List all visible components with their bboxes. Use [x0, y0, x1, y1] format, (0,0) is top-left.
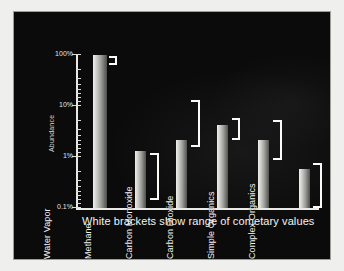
bracket-spine [320, 163, 322, 208]
y-minor-tick [76, 180, 81, 181]
bracket-bottom-arm [150, 198, 159, 200]
y-minor-tick [76, 89, 81, 90]
y-minor-tick [76, 78, 81, 79]
y-minor-tick [76, 84, 81, 85]
y-minor-tick [76, 199, 81, 200]
y-major-tick [72, 105, 81, 106]
bar-water-vapor[interactable] [93, 55, 107, 208]
bracket-bottom-arm [109, 63, 117, 65]
bracket-water-vapor [109, 56, 117, 65]
y-major-tick [72, 156, 81, 157]
y-minor-tick [76, 186, 81, 187]
bracket-bottom-arm [191, 145, 200, 147]
y-minor-tick [76, 129, 81, 130]
bar-complex-organics[interactable] [299, 169, 310, 208]
y-minor-tick [76, 97, 81, 98]
bracket-methane [150, 153, 159, 200]
bracket-spine [157, 153, 159, 200]
y-major-tick [72, 54, 81, 55]
bracket-spine [198, 100, 200, 147]
bracket-spine [238, 118, 240, 140]
y-minor-tick [76, 203, 81, 204]
y-tick-label-1: 1% [40, 152, 73, 159]
y-minor-tick [76, 191, 81, 192]
y-minor-tick [76, 135, 81, 136]
y-minor-tick [76, 195, 81, 196]
bracket-bottom-arm [232, 138, 240, 140]
bracket-carbon-dioxide [232, 118, 240, 140]
bracket-simple-organics [273, 120, 282, 160]
y-tick-label-100: 100% [40, 50, 73, 57]
y-minor-tick [76, 148, 81, 149]
plot-area: Abundance 100% 10% 1% 0.1% [14, 12, 330, 259]
bar-fill [93, 55, 107, 208]
y-axis-title: Abundance [48, 115, 55, 152]
bar-fill [299, 169, 310, 208]
y-minor-tick [76, 120, 81, 121]
y-tick-label-10: 10% [40, 101, 73, 108]
y-minor-tick [76, 101, 81, 102]
slide-plate: Abundance 100% 10% 1% 0.1% [14, 12, 330, 259]
bracket-bottom-arm [313, 206, 322, 208]
bracket-complex-organics [313, 163, 322, 208]
chart-caption: White brackets show range of cometary va… [82, 215, 314, 227]
y-minor-tick [76, 144, 81, 145]
y-minor-tick [76, 171, 81, 172]
y-minor-tick [76, 140, 81, 141]
y-minor-tick [76, 69, 81, 70]
y-minor-tick [76, 93, 81, 94]
bracket-spine [280, 120, 282, 160]
chart-screenshot: Abundance 100% 10% 1% 0.1% [0, 0, 344, 271]
bracket-bottom-arm [273, 158, 282, 160]
bracket-carbon-monoxide [191, 100, 200, 147]
y-minor-tick [76, 152, 81, 153]
